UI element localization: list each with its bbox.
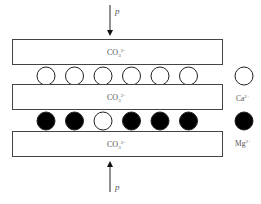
ca-ion [37, 67, 55, 85]
carbonate-layer-top: CO32- [13, 40, 223, 65]
carbonate-layer-diagram: p CO32- CO32- CO32- [0, 0, 261, 204]
ca-ion [180, 67, 198, 85]
mg-ion [151, 112, 169, 130]
legend-mg-symbol [235, 112, 253, 130]
carbonate-layer-bottom: CO32- [13, 132, 223, 157]
mg-ion [37, 112, 55, 130]
ca-ion-row [37, 67, 198, 85]
bottom-pressure-label: p [114, 182, 120, 192]
mg-ion [180, 112, 198, 130]
top-pressure-arrow: p [110, 5, 120, 33]
ca-ion [94, 112, 112, 130]
ca-ion [151, 67, 169, 85]
ca-ion [66, 67, 84, 85]
ca-ion [94, 67, 112, 85]
bottom-pressure-arrow: p [110, 164, 120, 192]
legend-ca-symbol [235, 67, 253, 85]
mg-ion [123, 112, 141, 130]
legend-ca-label: Ca2+ [236, 94, 250, 103]
legend: Ca2+ Mg2+ [235, 67, 253, 148]
ca-ion [123, 67, 141, 85]
carbonate-layer-middle: CO32- [13, 85, 223, 110]
top-pressure-label: p [114, 6, 120, 16]
mg-ion-row [37, 112, 198, 130]
mg-ion [66, 112, 84, 130]
legend-mg-label: Mg2+ [235, 139, 251, 148]
